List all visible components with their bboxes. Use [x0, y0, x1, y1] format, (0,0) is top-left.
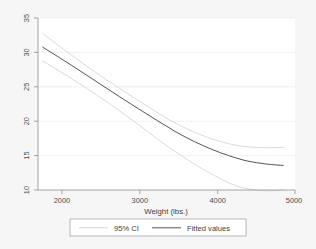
y-axis-ticks [34, 18, 38, 190]
y-tick-label: 20 [22, 117, 31, 125]
chart-figure: 10 15 20 25 30 35 2000 3000 4000 5000 We… [0, 0, 316, 249]
x-tick-label: 2000 [54, 196, 70, 205]
legend-label-fitted: Fitted values [187, 224, 230, 233]
legend-label-ci: 95% CI [114, 224, 139, 233]
x-tick-label: 5000 [286, 196, 302, 205]
y-axis-tick-labels: 10 15 20 25 30 35 [22, 14, 31, 194]
y-tick-label: 30 [22, 48, 31, 56]
y-tick-label: 25 [22, 83, 31, 91]
x-tick-label: 3000 [132, 196, 148, 205]
y-tick-label: 35 [22, 14, 31, 22]
y-tick-label: 15 [22, 151, 31, 159]
y-tick-label: 10 [22, 186, 31, 194]
x-tick-label: 4000 [209, 196, 225, 205]
plot-area-background [38, 18, 295, 190]
chart-legend: 95% CI Fitted values [70, 219, 246, 236]
x-axis-title: Weight (lbs.) [144, 207, 188, 216]
chart-svg: 10 15 20 25 30 35 2000 3000 4000 5000 We… [0, 0, 316, 249]
x-axis-tick-labels: 2000 3000 4000 5000 [54, 196, 303, 205]
